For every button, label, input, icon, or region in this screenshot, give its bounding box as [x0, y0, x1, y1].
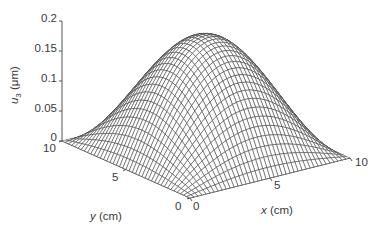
z-axis-title: u3 (μm) — [9, 66, 23, 104]
surface-plot — [0, 0, 382, 228]
z-axis-symbol: u — [8, 98, 20, 104]
y-axis-title: y (cm) — [90, 211, 122, 223]
y-axis-unit: (cm) — [96, 210, 122, 222]
z-tick-0.2: 0.2 — [17, 13, 57, 25]
x-axis-title: x (cm) — [261, 205, 293, 217]
z-tick-0.15: 0.15 — [17, 43, 57, 55]
x-tick-5: 5 — [274, 180, 280, 192]
z-axis-subscript: 3 — [14, 93, 23, 97]
z-tick-0.05: 0.05 — [17, 103, 57, 115]
y-tick-5: 5 — [112, 172, 118, 184]
x-tick-10: 10 — [355, 157, 368, 169]
y-tick-0: 0 — [175, 201, 181, 213]
x-tick-0: 0 — [193, 201, 199, 213]
y-tick-10: 10 — [43, 143, 56, 155]
x-axis-unit: (cm) — [267, 204, 293, 216]
z-axis-unit: (μm) — [8, 66, 20, 93]
surface-mesh — [62, 33, 350, 198]
